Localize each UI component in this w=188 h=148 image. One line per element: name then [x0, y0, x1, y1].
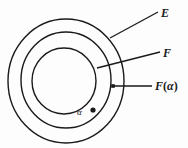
label-f-base: F: [155, 79, 163, 93]
label-outer-field-e: E: [161, 7, 169, 19]
figure-container: E F F(α) α: [0, 0, 188, 148]
label-alpha-arg: α: [167, 79, 174, 93]
leader-endpoint-marker: [111, 84, 115, 88]
label-alpha-point: α: [77, 108, 82, 117]
label-middle-field-f-alpha: F(α): [155, 80, 178, 92]
concentric-circles-diagram: [0, 0, 188, 148]
outer-circle: [8, 19, 124, 143]
inner-circle: [32, 48, 96, 114]
leader-line-e: [110, 12, 158, 38]
alpha-point-marker: [90, 107, 95, 112]
label-inner-field-f: F: [163, 47, 171, 59]
label-paren-close: ): [174, 79, 178, 93]
